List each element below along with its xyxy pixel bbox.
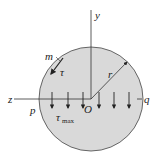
cross-section-diagram: y z O r m τ p q τ max [0, 0, 155, 159]
m-label: m [45, 50, 53, 62]
q-label: q [144, 93, 150, 105]
p-label: p [29, 104, 36, 116]
z-axis-label: z [7, 93, 13, 105]
tau-max-subscript: max [62, 117, 75, 125]
origin-label: O [84, 103, 92, 115]
radius-label: r [108, 68, 113, 80]
y-axis-label: y [94, 9, 100, 21]
